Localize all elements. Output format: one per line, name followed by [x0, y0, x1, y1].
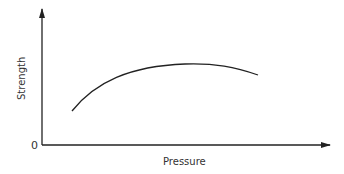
- strength-curve: [72, 64, 258, 111]
- x-axis-label: Pressure: [163, 156, 206, 167]
- origin-label: 0: [31, 139, 38, 152]
- y-axis-label: Strength: [16, 57, 27, 100]
- strength-pressure-chart: 0 Pressure Strength: [0, 0, 344, 174]
